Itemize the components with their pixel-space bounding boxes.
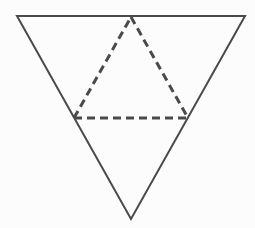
geometry-diagram <box>0 0 255 228</box>
diagram-background <box>0 0 255 228</box>
figure-canvas <box>0 0 255 228</box>
